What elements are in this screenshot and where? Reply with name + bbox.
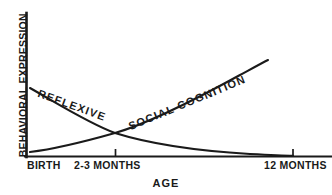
x-axis-title: AGE xyxy=(0,178,332,189)
y-axis-title: BEHAVIORAL EXPRESSION xyxy=(18,10,29,160)
x-tick-label-birth: BIRTH xyxy=(27,160,61,171)
behavioral-expression-age-chart: BEHAVIORAL EXPRESSION BIRTH 2-3 MONTHS 1… xyxy=(0,0,332,195)
x-tick-label-12-months: 12 MONTHS xyxy=(264,160,327,171)
x-tick-label-2-3-months: 2-3 MONTHS xyxy=(74,160,141,171)
